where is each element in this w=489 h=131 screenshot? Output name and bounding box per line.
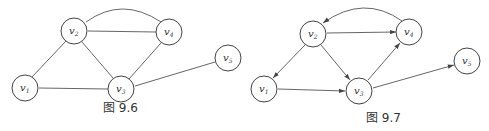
node-v4: v4 [156, 19, 182, 45]
edge-v1-to-v3 [278, 89, 345, 91]
node-v2: v2 [61, 18, 87, 44]
edge-v3-to-v5 [373, 65, 454, 88]
edge-v2-v3 [82, 42, 113, 78]
edge-v3-to-v4 [368, 43, 400, 80]
node-v1: v1 [12, 75, 38, 101]
node-v5: v5 [215, 45, 241, 71]
node-v5: v5 [454, 48, 480, 74]
edge-v2-to-v4 [327, 32, 396, 33]
edge-v1-v3 [39, 88, 108, 89]
edge-v3-v4 [129, 43, 161, 79]
node-v3: v3 [346, 78, 372, 104]
node-v1: v1 [251, 76, 277, 102]
edge-v2-to-v1 [273, 45, 305, 78]
edge-v2-v4-straight [88, 31, 156, 32]
edge-v2-to-v3 [321, 45, 350, 80]
node-v3: v3 [108, 76, 134, 102]
graph-diagrams: v1 v2 v3 v4 v5 图 9.6 v1 [0, 0, 489, 131]
node-v4: v4 [396, 19, 422, 45]
edge-v3-v5 [135, 62, 215, 86]
figure-caption: 图 9.6 [103, 101, 138, 115]
edge-v2-v4-arc [86, 9, 161, 22]
figure-9-6: v1 v2 v3 v4 v5 图 9.6 [12, 9, 241, 115]
edge-v4-to-v2 [323, 8, 402, 23]
figure-9-7: v1 v2 v3 v4 v5 图 9.7 [251, 8, 480, 125]
node-v2: v2 [300, 21, 326, 47]
figure-caption: 图 9.7 [366, 111, 401, 125]
edge-v1-v2 [32, 41, 66, 77]
